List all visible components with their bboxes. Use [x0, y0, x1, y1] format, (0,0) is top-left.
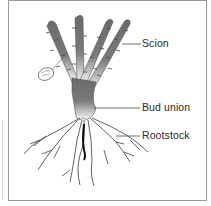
rootstock-roots: [24, 118, 148, 186]
rootstock-label: Rootstock: [142, 129, 190, 141]
scion-canes: [47, 15, 130, 119]
bud-union-label: Bud union: [142, 101, 190, 113]
scion-label: Scion: [142, 37, 169, 49]
